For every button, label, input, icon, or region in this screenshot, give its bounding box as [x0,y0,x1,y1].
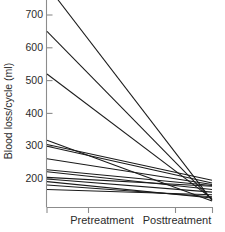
y-axis-ticks [47,15,53,179]
data-line-group [47,0,212,201]
figure-container: 200300400500600700 Blood loss/cycle (ml)… [0,0,225,232]
x-axis-ticks [47,208,213,214]
data-line-subject-10 [47,177,212,186]
line-chart: 200300400500600700 Blood loss/cycle (ml)… [0,0,225,232]
y-tick-label-300: 300 [25,139,43,151]
y-tick-label-700: 700 [25,8,43,20]
y-tick-label-200: 200 [25,172,43,184]
y-axis-label: Blood loss/cycle (ml) [2,63,14,159]
x-category-label-pretreatment: Pretreatment [70,214,134,226]
x-category-label-posttreatment: Posttreatment [143,214,211,226]
y-tick-label-400: 400 [25,107,43,119]
y-tick-label-500: 500 [25,74,43,86]
y-axis-tick-labels: 200300400500600700 [25,8,43,184]
y-tick-label-600: 600 [25,41,43,53]
